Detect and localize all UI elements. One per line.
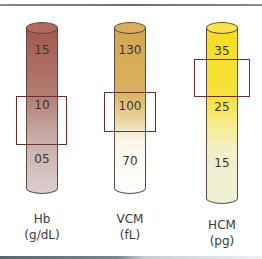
vcm-tick-low: 70 bbox=[114, 154, 146, 168]
hcm-cylinder-cap bbox=[206, 22, 238, 34]
vcm-tick-high: 130 bbox=[114, 43, 146, 57]
hb-name: Hb bbox=[12, 211, 72, 227]
vcm-cylinder-cap bbox=[114, 22, 146, 34]
hcm-unit: (pg) bbox=[192, 233, 252, 249]
vcm-unit: (fL) bbox=[100, 227, 160, 243]
hb-cylinder-cap bbox=[26, 22, 58, 34]
hb-highlight-frame bbox=[16, 96, 67, 145]
hcm-name: HCM bbox=[192, 217, 252, 233]
hb-tick-low: 05 bbox=[26, 152, 58, 166]
hb-tick-high: 15 bbox=[26, 43, 58, 57]
hcm-tick-high: 35 bbox=[206, 44, 238, 58]
vcm-name: VCM bbox=[100, 211, 160, 227]
vcm-highlight-frame bbox=[104, 92, 156, 132]
top-rule bbox=[0, 4, 262, 6]
hcm-highlight-frame bbox=[194, 59, 250, 97]
hb-unit: (g/dL) bbox=[12, 227, 72, 243]
hcm-tick-mid: 25 bbox=[206, 100, 238, 114]
hcm-tick-low: 15 bbox=[206, 156, 238, 170]
